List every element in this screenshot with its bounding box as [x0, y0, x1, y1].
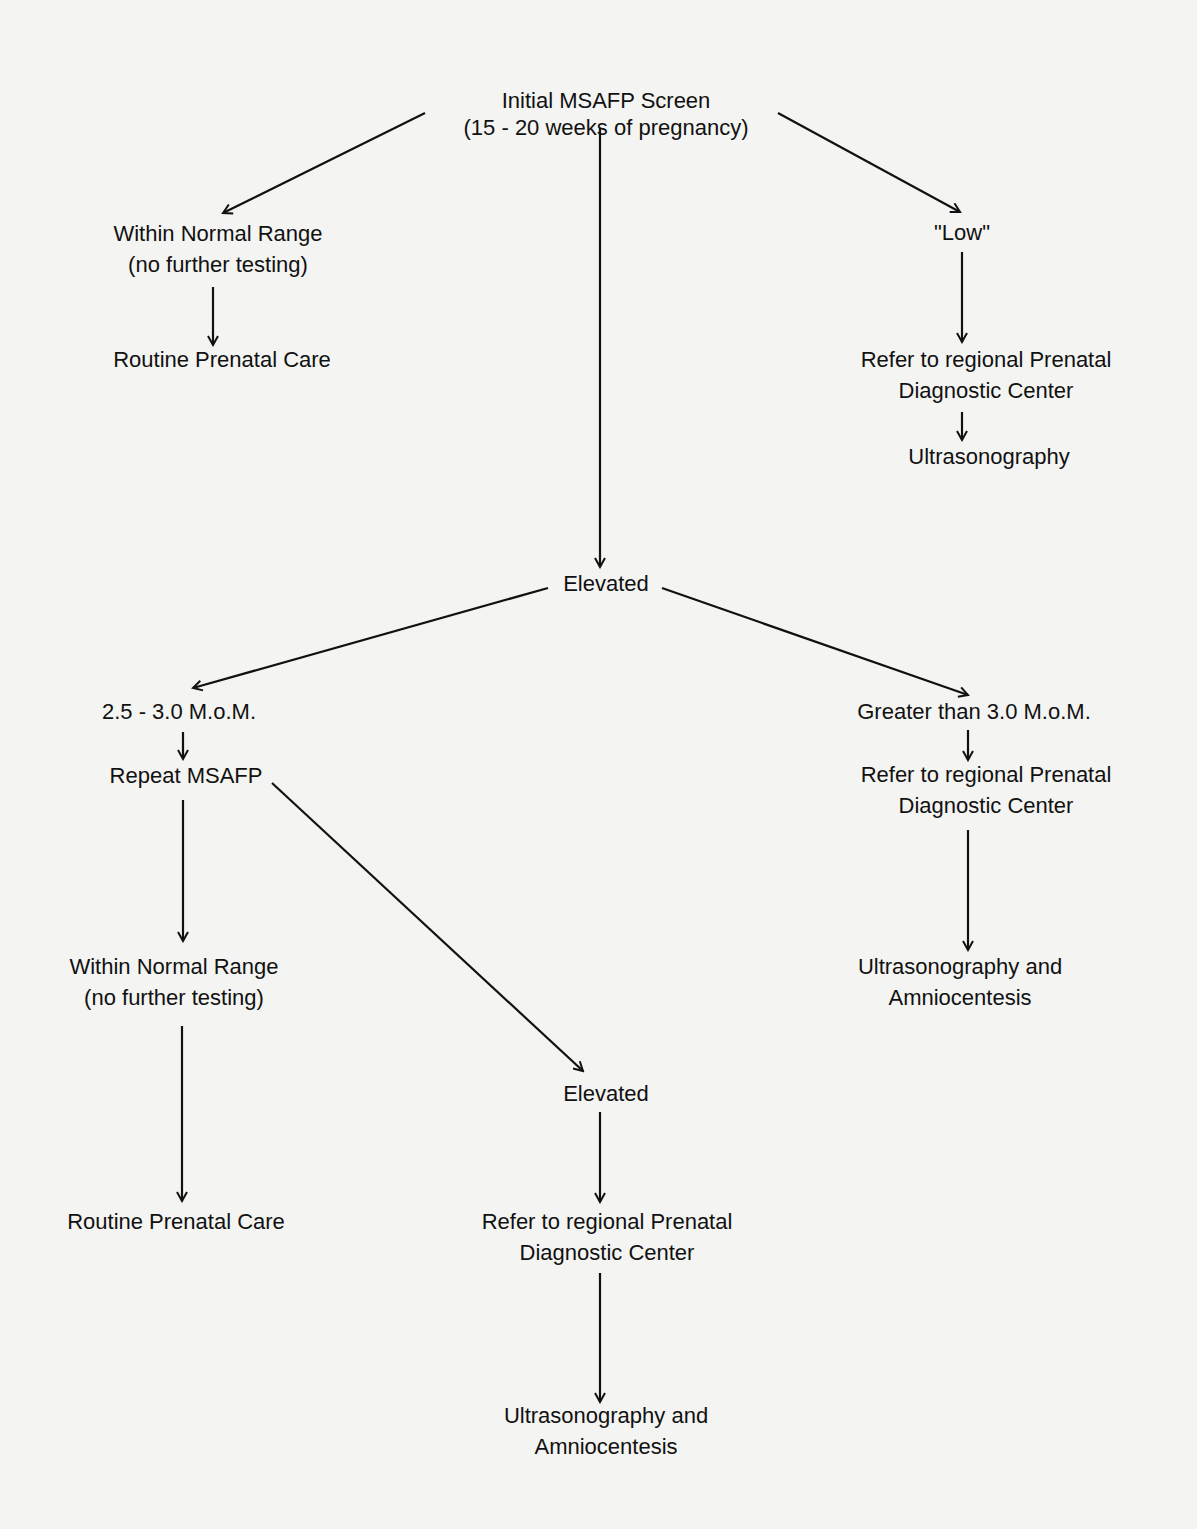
arrow-elevated-to-mom: [193, 588, 548, 688]
node-line: Ultrasonography and: [858, 951, 1062, 982]
node-within-normal-range: Within Normal Range (no further testing): [113, 218, 322, 280]
node-mom-range: 2.5 - 3.0 M.o.M.: [102, 696, 256, 727]
node-line: Diagnostic Center: [861, 375, 1112, 406]
node-line: Refer to regional Prenatal: [482, 1206, 733, 1237]
node-line: "Low": [934, 217, 990, 248]
node-line: Diagnostic Center: [861, 790, 1112, 821]
node-line: Amniocentesis: [858, 982, 1062, 1013]
node-line: Routine Prenatal Care: [67, 1206, 285, 1237]
node-line: Elevated: [563, 1078, 649, 1109]
arrow-repeat-to-elevated: [272, 783, 583, 1071]
node-repeat-msafp: Repeat MSAFP: [110, 760, 263, 791]
node-refer-regional-center-low: Refer to regional Prenatal Diagnostic Ce…: [861, 344, 1112, 406]
node-routine-prenatal-care-repeat: Routine Prenatal Care: [67, 1206, 285, 1237]
node-line: Repeat MSAFP: [110, 760, 263, 791]
node-ultrasonography-amniocentesis-right: Ultrasonography and Amniocentesis: [858, 951, 1062, 1013]
node-initial-msafp-screen: Initial MSAFP Screen (15 - 20 weeks of p…: [464, 85, 749, 143]
node-line: Refer to regional Prenatal: [861, 344, 1112, 375]
arrow-elevated-to-greater: [662, 588, 968, 695]
node-ultrasonography-amniocentesis-bottom: Ultrasonography and Amniocentesis: [504, 1400, 708, 1462]
node-line: 2.5 - 3.0 M.o.M.: [102, 696, 256, 727]
node-routine-prenatal-care: Routine Prenatal Care: [113, 344, 331, 375]
arrow-initial-to-normal: [223, 113, 425, 213]
node-low: "Low": [934, 217, 990, 248]
node-line: Within Normal Range: [113, 218, 322, 249]
node-elevated: Elevated: [563, 568, 649, 599]
node-ultrasonography: Ultrasonography: [908, 441, 1069, 472]
node-line: Routine Prenatal Care: [113, 344, 331, 375]
node-line: Ultrasonography: [908, 441, 1069, 472]
node-refer-regional-center-greater: Refer to regional Prenatal Diagnostic Ce…: [861, 759, 1112, 821]
node-line: Diagnostic Center: [482, 1237, 733, 1268]
node-refer-regional-center-bottom: Refer to regional Prenatal Diagnostic Ce…: [482, 1206, 733, 1268]
node-within-normal-range-repeat: Within Normal Range (no further testing): [69, 951, 278, 1013]
arrow-initial-to-low: [778, 113, 960, 212]
node-line: Refer to regional Prenatal: [861, 759, 1112, 790]
node-elevated-repeat: Elevated: [563, 1078, 649, 1109]
node-line: Amniocentesis: [504, 1431, 708, 1462]
node-line: Greater than 3.0 M.o.M.: [857, 696, 1091, 727]
node-line: (no further testing): [113, 249, 322, 280]
node-line: Elevated: [563, 568, 649, 599]
node-greater-than-3: Greater than 3.0 M.o.M.: [857, 696, 1091, 727]
node-line: (no further testing): [69, 982, 278, 1013]
node-line: (15 - 20 weeks of pregnancy): [464, 112, 749, 143]
node-line: Ultrasonography and: [504, 1400, 708, 1431]
node-line: Within Normal Range: [69, 951, 278, 982]
